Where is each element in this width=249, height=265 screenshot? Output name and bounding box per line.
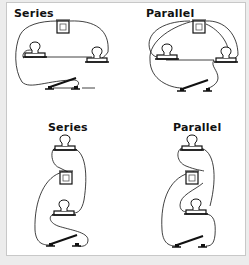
series-vertical-circuit (35, 148, 88, 246)
circuit-drawings (0, 0, 249, 265)
parallel-vertical-circuit (162, 148, 215, 246)
